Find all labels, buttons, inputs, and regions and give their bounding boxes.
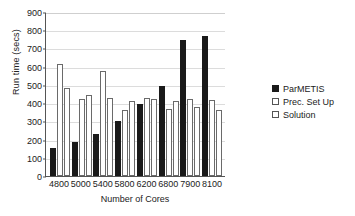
bar-group (136, 13, 158, 176)
bar (166, 109, 172, 176)
legend-item: ParMETIS (272, 82, 355, 95)
legend-swatch-icon (272, 85, 279, 92)
bar (151, 99, 157, 176)
y-tick-label: 700 (27, 44, 42, 54)
y-tick-mark (43, 177, 46, 178)
bar (115, 121, 121, 176)
y-tick-label: 0 (37, 172, 42, 182)
legend-item: Prec. Set Up (272, 95, 355, 108)
bar (144, 98, 150, 176)
bar (57, 64, 63, 176)
x-tick-label: 6200 (136, 179, 158, 189)
y-tick-label: 600 (27, 63, 42, 73)
bar (100, 71, 106, 176)
legend-label: ParMETIS (283, 84, 325, 94)
bar (122, 110, 128, 176)
bar (64, 88, 70, 176)
legend-item: Solution (272, 108, 355, 121)
bar (50, 148, 56, 176)
y-tick-label: 400 (27, 99, 42, 109)
bar (180, 40, 186, 176)
bar (159, 86, 165, 176)
plot-area: 0100200300400500600700800900 (45, 13, 225, 177)
bar-group (158, 13, 180, 176)
bar-chart-figure: Run time (secs) 010020030040050060070080… (0, 0, 355, 216)
y-tick-label: 500 (27, 81, 42, 91)
x-tick-label: 7900 (179, 179, 201, 189)
bar (202, 36, 208, 176)
bar (173, 101, 179, 176)
legend-swatch-icon (272, 98, 279, 105)
y-axis-title: Run time (secs) (11, 2, 21, 122)
legend: ParMETISPrec. Set UpSolution (272, 82, 355, 121)
x-tick-label: 6800 (157, 179, 179, 189)
x-axis-title: Number of Cores (45, 194, 225, 204)
bar-group (49, 13, 71, 176)
bar (79, 99, 85, 176)
x-tick-label: 5400 (92, 179, 114, 189)
x-tick-label: 5800 (114, 179, 136, 189)
bar-group (201, 13, 223, 176)
bar (72, 142, 78, 176)
bar-group (71, 13, 93, 176)
bar (86, 95, 92, 176)
y-tick-label: 900 (27, 8, 42, 18)
bar (194, 107, 200, 176)
bar (137, 104, 143, 176)
x-tick-label: 8100 (201, 179, 223, 189)
bar (93, 134, 99, 176)
y-tick-label: 100 (27, 154, 42, 164)
legend-swatch-icon (272, 111, 279, 118)
x-tick-label: 5000 (70, 179, 92, 189)
x-tick-label: 4800 (48, 179, 70, 189)
bar (107, 98, 113, 176)
bar (129, 101, 135, 176)
bar (216, 110, 222, 176)
x-axis-tick-labels: 48005000540058006200680079008100 (45, 179, 225, 189)
bar-group (93, 13, 115, 176)
bar-groups (46, 13, 225, 176)
bar (187, 99, 193, 176)
legend-label: Solution (283, 110, 316, 120)
y-tick-label: 300 (27, 117, 42, 127)
y-tick-label: 800 (27, 26, 42, 36)
legend-label: Prec. Set Up (283, 97, 334, 107)
bar (209, 100, 215, 176)
y-tick-label: 200 (27, 136, 42, 146)
bar-group (114, 13, 136, 176)
bar-group (180, 13, 202, 176)
